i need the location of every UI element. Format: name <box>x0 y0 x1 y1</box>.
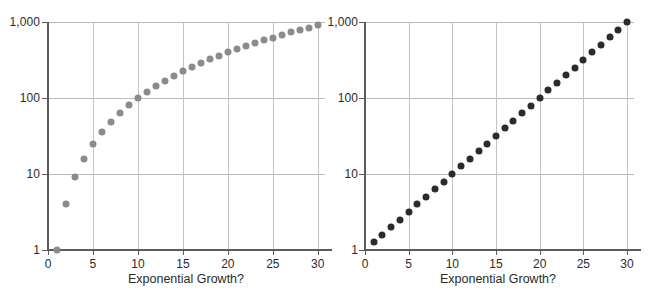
chart-panel-right: 1,000 100 10 1 <box>328 0 656 298</box>
data-point <box>71 174 78 181</box>
data-point <box>571 64 578 71</box>
gridline-vertical <box>228 22 229 250</box>
data-point <box>125 101 132 108</box>
gridline-vertical <box>273 22 274 250</box>
y-tick-label: 1 <box>351 243 358 257</box>
data-point <box>449 171 456 178</box>
x-tick-label: 0 <box>45 257 52 271</box>
x-tick-label: 20 <box>533 257 546 271</box>
data-point <box>379 231 386 238</box>
gridline-vertical <box>452 22 453 250</box>
gridline-vertical <box>627 22 628 250</box>
data-point <box>423 193 430 200</box>
data-point <box>170 72 177 79</box>
x-axis-labels-left: 0 5 10 15 20 25 30 <box>48 252 325 272</box>
data-point <box>606 34 613 41</box>
y-axis-tick <box>359 22 365 23</box>
y-tick-label: 10 <box>26 167 40 181</box>
y-axis-tick <box>42 22 48 23</box>
data-point <box>519 110 526 117</box>
x-axis-title-left: Exponential Growth? <box>128 272 244 286</box>
data-point <box>580 57 587 64</box>
gridline-horizontal <box>48 174 325 175</box>
y-tick-label: 100 <box>338 91 358 105</box>
x-tick-label: 10 <box>131 257 144 271</box>
plot-area-left <box>48 22 325 250</box>
gridline-vertical <box>318 22 319 250</box>
x-tick-label: 15 <box>176 257 189 271</box>
chart-panel-left: 1,000 100 10 1 <box>0 0 328 298</box>
data-point <box>589 49 596 56</box>
gridline-vertical <box>540 22 541 250</box>
data-point <box>242 42 249 49</box>
data-point <box>143 88 150 95</box>
data-point <box>188 63 195 70</box>
data-point <box>251 40 258 47</box>
gridline-horizontal <box>48 22 325 23</box>
data-point <box>62 201 69 208</box>
gridline-vertical <box>138 22 139 250</box>
gridline-vertical <box>183 22 184 250</box>
data-point <box>224 49 231 56</box>
gridline-vertical <box>409 22 410 250</box>
y-axis-tick <box>42 174 48 175</box>
x-axis-title-right: Exponential Growth? <box>440 272 556 286</box>
y-axis-tick <box>42 98 48 99</box>
y-axis-tick <box>359 98 365 99</box>
y-axis-tick <box>359 174 365 175</box>
gridline-horizontal <box>365 98 634 99</box>
data-point <box>388 224 395 231</box>
data-point <box>197 59 204 66</box>
data-point <box>296 27 303 34</box>
x-tick-label: 20 <box>221 257 234 271</box>
y-axis-labels-right: 1,000 100 10 1 <box>328 22 358 250</box>
x-tick-label: 30 <box>311 257 324 271</box>
gridline-horizontal <box>365 22 634 23</box>
data-point <box>305 24 312 31</box>
data-point <box>134 95 141 102</box>
gridline-horizontal <box>48 98 325 99</box>
y-tick-label: 1,000 <box>9 15 40 29</box>
data-point <box>215 52 222 59</box>
data-point <box>466 155 473 162</box>
data-point <box>152 82 159 89</box>
y-tick-label: 100 <box>20 91 40 105</box>
data-point <box>287 29 294 36</box>
data-point <box>615 26 622 33</box>
data-point <box>314 22 321 29</box>
data-point <box>370 239 377 246</box>
data-point <box>501 125 508 132</box>
data-point <box>624 19 631 26</box>
y-axis-line <box>47 22 49 250</box>
data-point <box>527 102 534 109</box>
data-point <box>405 209 412 216</box>
data-point <box>269 34 276 41</box>
data-point <box>89 140 96 147</box>
x-axis-labels-right: 0 5 10 15 20 25 30 <box>365 252 634 272</box>
x-tick-label: 25 <box>266 257 279 271</box>
data-point <box>278 31 285 38</box>
x-tick-label: 10 <box>446 257 459 271</box>
data-point <box>440 178 447 185</box>
y-tick-label: 10 <box>344 167 358 181</box>
data-point <box>233 46 240 53</box>
data-point <box>484 140 491 147</box>
x-tick-label: 25 <box>577 257 590 271</box>
data-point <box>107 118 114 125</box>
x-axis-line <box>47 249 332 251</box>
gridline-horizontal <box>365 174 634 175</box>
data-point <box>396 216 403 223</box>
y-tick-label: 1,000 <box>327 15 358 29</box>
data-point <box>260 37 267 44</box>
data-point <box>545 87 552 94</box>
data-point <box>562 72 569 79</box>
data-point <box>98 128 105 135</box>
data-point <box>536 95 543 102</box>
x-tick-label: 15 <box>489 257 502 271</box>
data-point <box>414 201 421 208</box>
y-axis-line <box>364 22 366 250</box>
y-tick-label: 1 <box>33 243 40 257</box>
data-point <box>597 41 604 48</box>
x-tick-label: 30 <box>620 257 633 271</box>
data-point <box>510 117 517 124</box>
